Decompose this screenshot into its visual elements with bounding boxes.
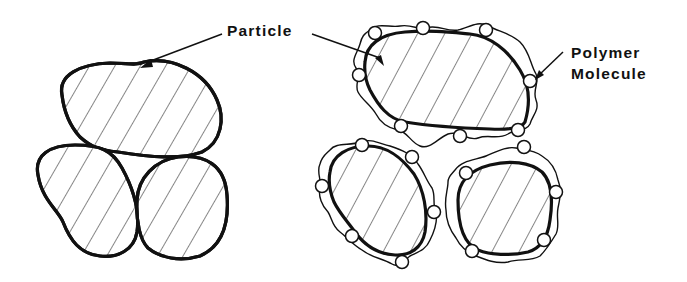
stabilized-particle-group (316, 22, 563, 269)
diagram-canvas: Particle Polymer Molecule (0, 0, 687, 282)
particle-label: Particle (227, 20, 293, 41)
polymer-leader-line (535, 52, 563, 80)
bare-particle-top (62, 61, 222, 157)
bare-particle-bottom-left (37, 145, 137, 256)
coated-particle-bottom-right (445, 141, 562, 263)
polymer-label-line1: Polymer (571, 42, 641, 63)
coated-particle-bottom-left (316, 139, 441, 269)
bare-particle-bottom-right (137, 157, 228, 259)
polymer-label-line2: Molecule (571, 63, 647, 84)
bare-particle-cluster (37, 61, 227, 259)
coated-particle-top (353, 22, 538, 147)
